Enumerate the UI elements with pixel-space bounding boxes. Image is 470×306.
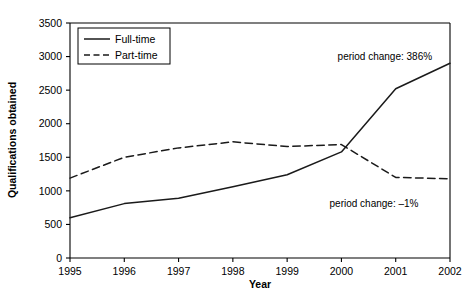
series-line-full-time: [70, 63, 450, 217]
y-tick-label: 0: [56, 252, 62, 264]
chart-legend[interactable]: Full-time Part-time: [78, 28, 170, 64]
y-tick-label: 2500: [39, 84, 63, 96]
x-tick-label: 1998: [221, 265, 245, 277]
data-series-group: [70, 63, 450, 217]
x-tick-label: 2000: [330, 265, 354, 277]
x-tick-label: 1996: [113, 265, 137, 277]
x-tick-label: 2001: [384, 265, 408, 277]
annotation-group: period change: 386%period change: –1%: [330, 51, 433, 209]
y-tick-label: 500: [44, 218, 62, 230]
y-tick-label: 3000: [39, 50, 63, 62]
series-line-part-time: [70, 142, 450, 179]
x-tick-label: 2002: [438, 265, 462, 277]
legend-label-part-time: Part-time: [115, 49, 158, 61]
x-axis-title: Year: [249, 278, 271, 290]
y-tick-label: 2000: [39, 117, 63, 129]
line-chart: 0500100015002000250030003500 19951996199…: [0, 0, 470, 306]
chart-figure: 0500100015002000250030003500 19951996199…: [0, 0, 470, 306]
x-axis-ticks: 19951996199719981999200020012002: [58, 258, 462, 277]
annotation-part-time: period change: –1%: [330, 198, 419, 209]
y-tick-label: 3500: [39, 17, 63, 29]
y-tick-label: 1000: [39, 185, 63, 197]
annotation-full-time: period change: 386%: [338, 51, 433, 62]
x-tick-label: 1999: [275, 265, 299, 277]
y-tick-label: 1500: [39, 151, 63, 163]
y-axis-ticks: 0500100015002000250030003500: [39, 17, 70, 264]
x-tick-label: 1997: [167, 265, 191, 277]
x-tick-label: 1995: [58, 265, 82, 277]
legend-label-full-time: Full-time: [115, 33, 155, 45]
y-axis-title: Qualifications obtained: [6, 82, 18, 198]
